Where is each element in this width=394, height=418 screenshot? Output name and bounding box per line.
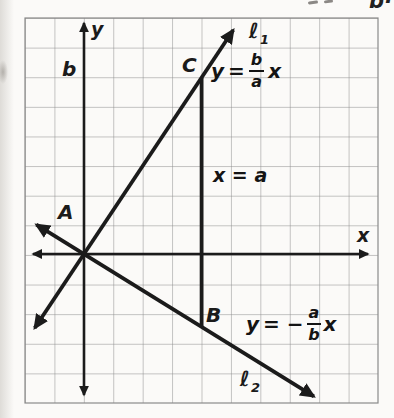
ell-subscript: 2 bbox=[251, 380, 260, 395]
eq-vertical-text: x = a bbox=[213, 166, 267, 185]
eq2-numerator: a bbox=[307, 305, 322, 325]
b-tick-label: b bbox=[62, 59, 76, 79]
eq1-denominator: a bbox=[251, 72, 262, 90]
point-label-C: C bbox=[182, 55, 197, 75]
eq2-fraction: a b bbox=[307, 305, 322, 343]
eq1-numerator: b bbox=[249, 52, 264, 72]
eq2-denominator: b bbox=[308, 325, 319, 343]
eq2-minus-sign: − bbox=[287, 314, 304, 334]
ell-glyph: ℓ bbox=[240, 367, 250, 391]
equation-line-l1: y = b a x bbox=[211, 52, 281, 90]
point-label-B: B bbox=[206, 305, 221, 325]
equation-line-l2: y = − a b x bbox=[246, 305, 336, 343]
point-label-A: A bbox=[58, 202, 73, 222]
eq1-variable: x bbox=[268, 61, 281, 81]
eq2-variable: x bbox=[323, 314, 336, 334]
eq1-equals: = bbox=[228, 61, 245, 81]
eq2-equals: = bbox=[263, 314, 280, 334]
line-l2-label: ℓ2 bbox=[240, 369, 259, 390]
eq2-lhs: y bbox=[246, 314, 259, 334]
ell-subscript: 1 bbox=[260, 32, 269, 47]
eq1-lhs: y bbox=[211, 61, 224, 81]
line-l1-label: ℓ1 bbox=[249, 21, 268, 42]
eq1-fraction: b a bbox=[249, 52, 264, 90]
figure-canvas: b· y x b A C B ℓ1 ℓ2 bbox=[0, 0, 394, 418]
equation-vertical-line: x = a bbox=[213, 166, 267, 185]
y-axis-label: y bbox=[91, 20, 103, 39]
x-axis-label: x bbox=[357, 226, 369, 245]
ell-glyph: ℓ bbox=[249, 19, 259, 43]
